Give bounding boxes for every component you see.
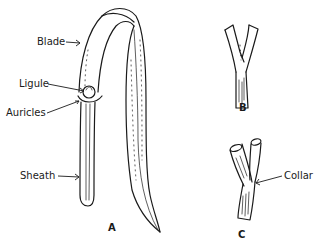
blade-arrow — [66, 42, 80, 43]
panel-b-left-branch — [225, 25, 244, 62]
ligule-shape — [83, 86, 95, 98]
label-ligule: Ligule — [19, 79, 49, 89]
label-sheath: Sheath — [20, 171, 55, 181]
panel-c-right-cut — [250, 138, 261, 146]
blade-outline-outer — [79, 9, 160, 233]
panel-label-c: C — [238, 230, 245, 240]
label-blade: Blade — [37, 37, 65, 47]
panel-b-junction — [225, 25, 258, 108]
sheath-outline — [80, 102, 95, 206]
sheath-arrow — [58, 176, 79, 177]
panel-label-a: A — [108, 223, 116, 233]
grass-leaf-diagram: Blade Ligule Auricles Sheath Collar A B … — [0, 0, 317, 250]
blade-outline-inner — [98, 22, 134, 93]
panel-c-collar-junction — [229, 138, 261, 220]
panel-label-b: B — [239, 103, 247, 113]
panel-c-stem — [238, 182, 255, 220]
auricles-arrow — [47, 101, 79, 113]
label-auricles: Auricles — [6, 108, 46, 118]
label-collar: Collar — [284, 171, 313, 181]
collar-arrow — [256, 176, 282, 183]
panel-c-left-cut — [229, 143, 242, 153]
panel-a-leaf — [78, 9, 160, 233]
blade-fold — [126, 26, 160, 232]
